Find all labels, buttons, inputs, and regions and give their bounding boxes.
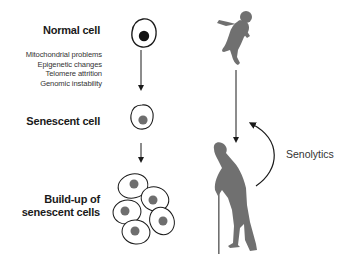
senescent-cell-icon bbox=[131, 105, 153, 129]
cell-cluster-icon bbox=[111, 171, 179, 247]
elderly-silhouette-icon bbox=[214, 142, 257, 254]
baby-silhouette-icon bbox=[217, 11, 252, 65]
senolytics-arrow-icon bbox=[252, 124, 274, 186]
normal-cell-icon bbox=[132, 19, 156, 47]
diagram-graphics bbox=[0, 0, 353, 267]
